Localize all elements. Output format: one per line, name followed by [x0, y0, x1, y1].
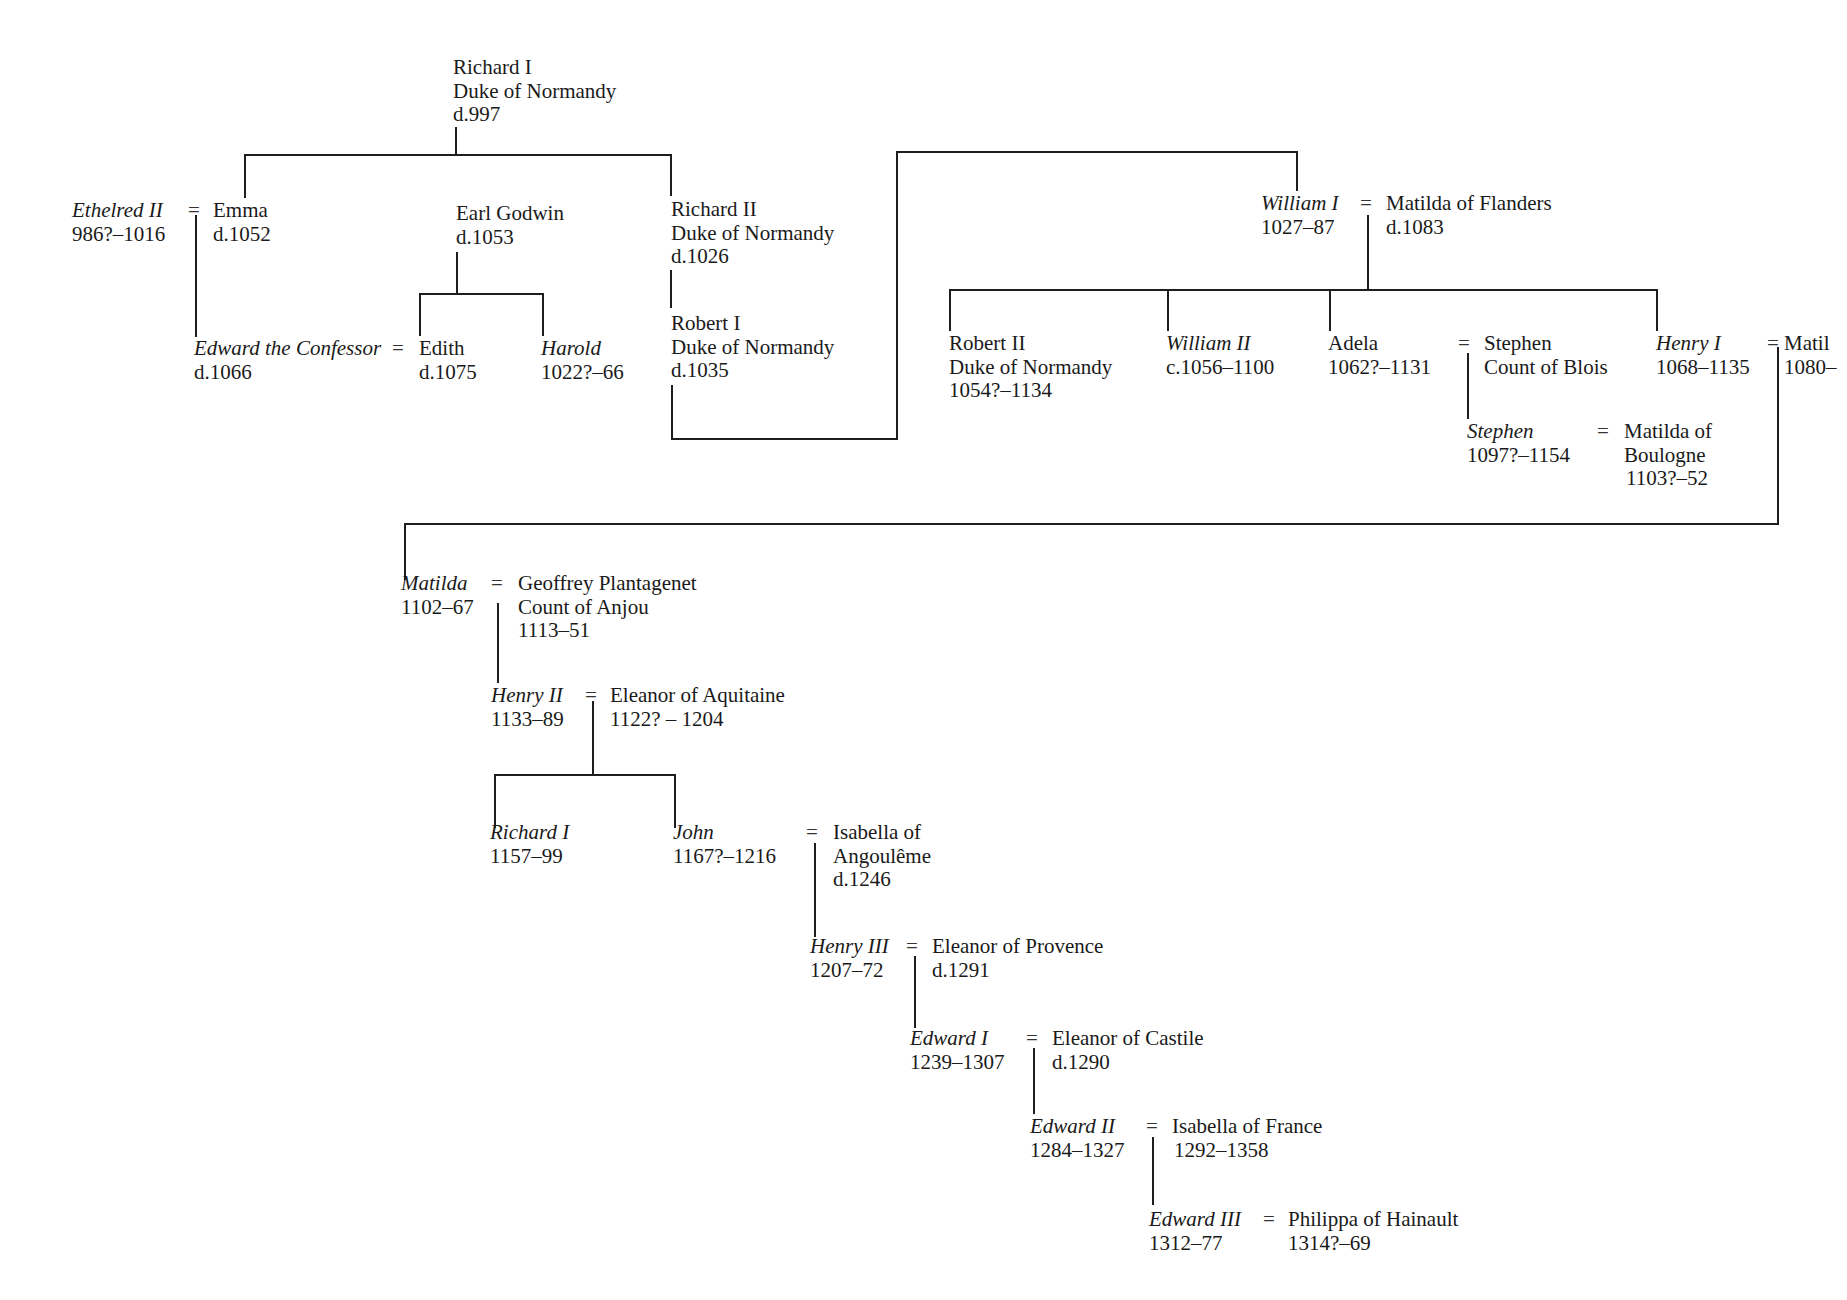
- line-edward1-descent: [1033, 1048, 1035, 1114]
- person-richard1-king: Richard I 1157–99: [490, 821, 569, 868]
- person-william2: William II c.1056–1100: [1166, 332, 1274, 379]
- person-dates: d.1291: [932, 959, 1103, 983]
- person-name: Edward I: [910, 1027, 1005, 1051]
- person-name: Edward the Confessor: [194, 337, 381, 361]
- person-name: Eleanor of Provence: [932, 935, 1103, 959]
- line-to-henry1: [1656, 289, 1658, 331]
- person-edith: Edith d.1075: [419, 337, 477, 384]
- marriage-symbol: =: [491, 572, 503, 596]
- person-name: Edith: [419, 337, 477, 361]
- person-title: Duke of Normandy: [453, 80, 616, 104]
- marriage-symbol: =: [1263, 1208, 1275, 1232]
- line-to-emma: [244, 154, 246, 198]
- person-dates: d.1246: [833, 868, 931, 892]
- marriage-symbol: =: [392, 337, 404, 361]
- person-henry2: Henry II 1133–89: [491, 684, 564, 731]
- line-henry2-descent: [592, 701, 594, 776]
- person-philippa-hainault: Philippa of Hainault 1314?–69: [1288, 1208, 1458, 1255]
- person-name: Matilda: [401, 572, 474, 596]
- person-geoffrey-plantagenet: Geoffrey Plantagenet Count of Anjou 1113…: [518, 572, 697, 643]
- line-robert1-bottom: [671, 438, 898, 440]
- person-dates: 1314?–69: [1288, 1232, 1458, 1256]
- line-richard2-robert1: [670, 270, 672, 308]
- person-dates: 1292–1358: [1172, 1139, 1322, 1163]
- person-dates: 1102–67: [401, 596, 474, 620]
- line-john-descent: [814, 843, 816, 937]
- person-adela: Adela 1062?–1131: [1328, 332, 1431, 379]
- person-name: Matilda of Flanders: [1386, 192, 1552, 216]
- person-dates: d.1026: [671, 245, 834, 269]
- person-dates: 1022?–66: [541, 361, 624, 385]
- person-stephen-blois: Stephen Count of Blois: [1484, 332, 1608, 379]
- line-william1-children-bar: [949, 289, 1658, 291]
- person-title: Duke of Normandy: [671, 222, 834, 246]
- line-adela-stephen-descent: [1467, 353, 1469, 419]
- person-dates: 1113–51: [518, 619, 697, 643]
- person-title: Duke of Normandy: [949, 356, 1112, 380]
- line-henry1-descent: [1777, 347, 1779, 525]
- person-name: Edward II: [1030, 1115, 1125, 1139]
- person-name: Henry III: [810, 935, 889, 959]
- person-dates: d.997: [453, 103, 616, 127]
- person-name: William I: [1261, 192, 1339, 216]
- person-isabella-angouleme: Isabella of Angoulême d.1246: [833, 821, 931, 892]
- person-name: Richard II: [671, 198, 834, 222]
- person-name: Henry I: [1656, 332, 1750, 356]
- person-dates: 1054?–1134: [949, 379, 1112, 403]
- person-name: Isabella of France: [1172, 1115, 1322, 1139]
- person-title: Count of Blois: [1484, 356, 1608, 380]
- person-dates: d.1075: [419, 361, 477, 385]
- person-title: Angoulême: [833, 845, 931, 869]
- person-name: Edward III: [1149, 1208, 1241, 1232]
- person-name: Eleanor of Aquitaine: [610, 684, 785, 708]
- person-edward3: Edward III 1312–77: [1149, 1208, 1241, 1255]
- person-dates: 1167?–1216: [673, 845, 776, 869]
- line-robert1-top: [896, 151, 1298, 153]
- person-edward1: Edward I 1239–1307: [910, 1027, 1005, 1074]
- person-name: Richard I: [453, 56, 616, 80]
- person-dates: d.1083: [1386, 216, 1552, 240]
- person-dates: 1157–99: [490, 845, 569, 869]
- person-title: Boulogne: [1624, 444, 1712, 468]
- person-edward2: Edward II 1284–1327: [1030, 1115, 1125, 1162]
- person-ethelred2: Ethelred II 986?–1016: [72, 199, 165, 246]
- line-matilda-geoffrey-descent: [497, 603, 499, 683]
- person-matilda-flanders: Matilda of Flanders d.1083: [1386, 192, 1552, 239]
- person-william1: William I 1027–87: [1261, 192, 1339, 239]
- line-to-adela: [1329, 289, 1331, 331]
- person-richard1-normandy: Richard I Duke of Normandy d.997: [453, 56, 616, 127]
- person-emma: Emma d.1052: [213, 199, 271, 246]
- person-dates: 1239–1307: [910, 1051, 1005, 1075]
- person-dates: 1122? – 1204: [610, 708, 785, 732]
- person-robert2-normandy: Robert II Duke of Normandy 1054?–1134: [949, 332, 1112, 403]
- person-edward-confessor: Edward the Confessor d.1066: [194, 337, 381, 384]
- marriage-symbol: =: [188, 199, 200, 223]
- person-dates: d.1052: [213, 223, 271, 247]
- person-name: Robert I: [671, 312, 834, 336]
- person-name: Robert II: [949, 332, 1112, 356]
- person-stephen-king: Stephen 1097?–1154: [1467, 420, 1570, 467]
- person-dates: 1062?–1131: [1328, 356, 1431, 380]
- person-name: Matil: [1784, 332, 1837, 356]
- marriage-symbol: =: [1026, 1027, 1038, 1051]
- person-dates: d.1290: [1052, 1051, 1204, 1075]
- person-dates: 1068–1135: [1656, 356, 1750, 380]
- person-dates: 1207–72: [810, 959, 889, 983]
- line-edward2-descent: [1152, 1137, 1154, 1205]
- line-godwin-children-bar: [419, 293, 544, 295]
- person-dates: 1080–: [1784, 356, 1837, 380]
- person-matilda-henry1-wife: Matil 1080–: [1784, 332, 1837, 379]
- person-harold: Harold 1022?–66: [541, 337, 624, 384]
- line-robert1-up: [896, 152, 898, 440]
- person-name: Adela: [1328, 332, 1431, 356]
- person-dates: 1284–1327: [1030, 1139, 1125, 1163]
- person-dates: 986?–1016: [72, 223, 165, 247]
- person-name: Harold: [541, 337, 624, 361]
- person-name: Matilda of: [1624, 420, 1712, 444]
- person-earl-godwin: Earl Godwin d.1053: [456, 202, 564, 249]
- line-richard1-down: [455, 127, 457, 155]
- person-richard2-normandy: Richard II Duke of Normandy d.1026: [671, 198, 834, 269]
- line-to-william2: [1167, 289, 1169, 331]
- person-name: Stephen: [1484, 332, 1608, 356]
- marriage-symbol: =: [1360, 192, 1372, 216]
